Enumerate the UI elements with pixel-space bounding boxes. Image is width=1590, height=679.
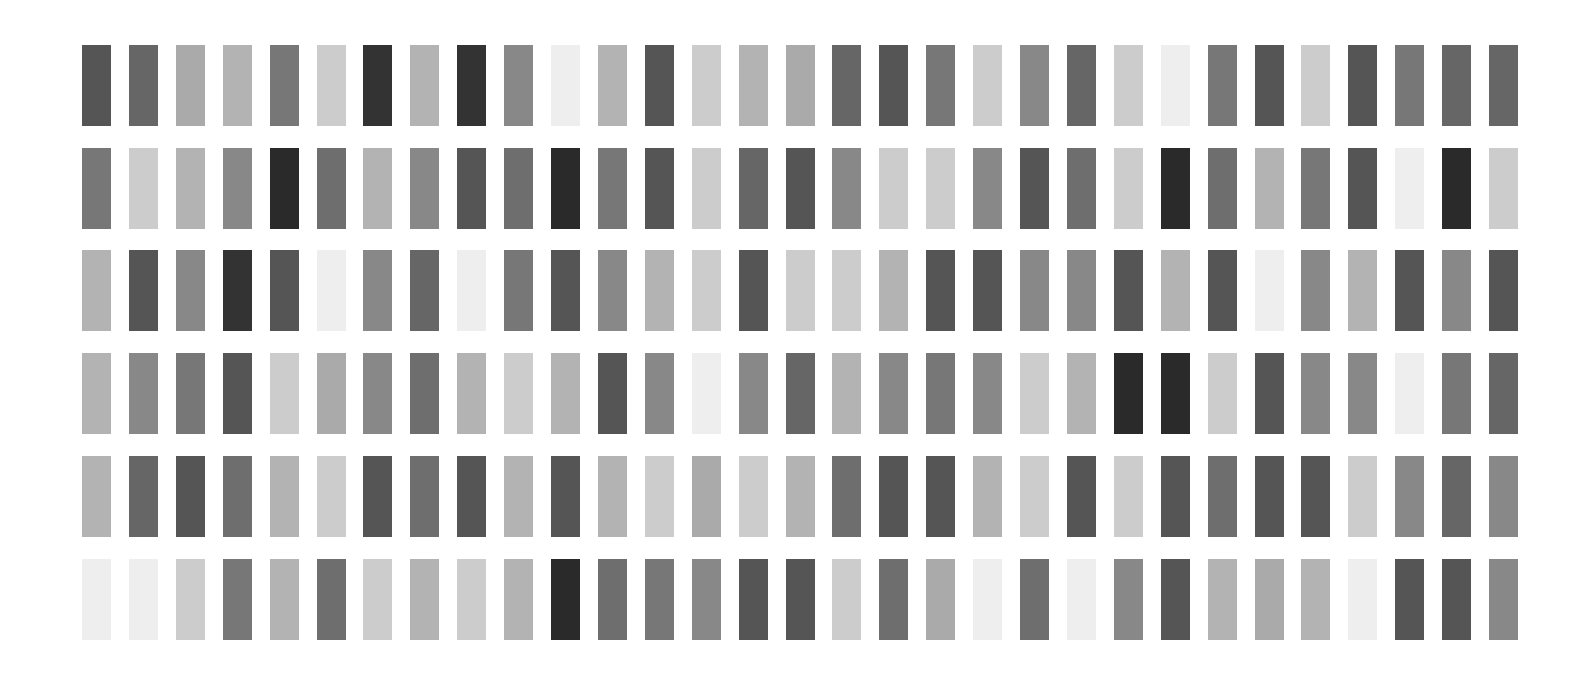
gray-swatch: [457, 353, 486, 434]
gray-swatch: [739, 250, 768, 331]
gray-swatch: [692, 559, 721, 640]
gray-swatch: [176, 353, 205, 434]
gray-swatch: [223, 45, 252, 126]
gray-swatch: [1208, 45, 1237, 126]
gray-swatch: [270, 559, 299, 640]
gray-swatch: [692, 353, 721, 434]
gray-swatch: [1208, 456, 1237, 537]
gray-swatch: [82, 148, 111, 229]
gray-swatch: [1255, 250, 1284, 331]
gray-swatch: [1301, 45, 1330, 126]
gray-swatch: [1020, 45, 1049, 126]
gray-swatch: [1442, 45, 1471, 126]
gray-swatch: [1301, 148, 1330, 229]
gray-swatch: [410, 45, 439, 126]
gray-swatch: [1161, 250, 1190, 331]
gray-swatch: [129, 45, 158, 126]
gray-swatch: [270, 45, 299, 126]
gray-swatch: [129, 250, 158, 331]
gray-swatch: [1255, 559, 1284, 640]
gray-swatch: [786, 559, 815, 640]
gray-swatch: [832, 559, 861, 640]
gray-swatch: [551, 353, 580, 434]
gray-swatch: [270, 456, 299, 537]
gray-swatch: [457, 559, 486, 640]
gray-swatch: [317, 456, 346, 537]
gray-swatch: [1208, 148, 1237, 229]
gray-swatch: [1161, 559, 1190, 640]
gray-swatch: [176, 559, 205, 640]
gray-swatch: [1208, 559, 1237, 640]
gray-swatch: [82, 353, 111, 434]
gray-swatch: [1348, 250, 1377, 331]
gray-swatch: [832, 148, 861, 229]
gray-swatch: [1161, 148, 1190, 229]
gray-swatch: [1348, 45, 1377, 126]
gray-swatch: [129, 148, 158, 229]
gray-swatch: [973, 456, 1002, 537]
gray-swatch: [786, 456, 815, 537]
gray-swatch: [457, 250, 486, 331]
gray-swatch: [1020, 559, 1049, 640]
gray-swatch: [1161, 456, 1190, 537]
gray-swatch: [598, 456, 627, 537]
gray-swatch: [270, 148, 299, 229]
gray-swatch: [1208, 250, 1237, 331]
gray-swatch: [973, 250, 1002, 331]
gray-swatch: [223, 456, 252, 537]
gray-swatch: [1114, 250, 1143, 331]
gray-swatch: [223, 148, 252, 229]
gray-swatch: [598, 353, 627, 434]
gray-swatch: [1114, 148, 1143, 229]
gray-swatch: [82, 456, 111, 537]
gray-swatch: [82, 559, 111, 640]
gray-swatch: [1255, 353, 1284, 434]
gray-swatch-grid: [0, 0, 1590, 679]
gray-swatch: [410, 456, 439, 537]
gray-swatch: [598, 45, 627, 126]
gray-swatch: [692, 456, 721, 537]
gray-swatch: [1348, 559, 1377, 640]
gray-swatch: [786, 250, 815, 331]
gray-swatch: [504, 353, 533, 434]
gray-swatch: [879, 353, 908, 434]
gray-swatch: [1395, 559, 1424, 640]
gray-swatch: [1489, 250, 1518, 331]
gray-swatch: [1395, 353, 1424, 434]
gray-swatch: [223, 353, 252, 434]
gray-swatch: [1395, 250, 1424, 331]
gray-swatch: [1067, 559, 1096, 640]
gray-swatch: [1489, 559, 1518, 640]
gray-swatch: [363, 250, 392, 331]
gray-swatch: [645, 250, 674, 331]
gray-swatch: [363, 148, 392, 229]
gray-swatch: [317, 45, 346, 126]
gray-swatch: [598, 250, 627, 331]
gray-swatch: [504, 250, 533, 331]
gray-swatch: [1301, 559, 1330, 640]
gray-swatch: [1442, 353, 1471, 434]
gray-swatch: [692, 250, 721, 331]
gray-swatch: [551, 148, 580, 229]
gray-swatch: [786, 45, 815, 126]
gray-swatch: [1114, 456, 1143, 537]
gray-swatch: [973, 559, 1002, 640]
gray-swatch: [410, 559, 439, 640]
gray-swatch: [551, 45, 580, 126]
gray-swatch: [317, 250, 346, 331]
gray-swatch: [504, 559, 533, 640]
gray-swatch: [1114, 45, 1143, 126]
gray-swatch: [1348, 353, 1377, 434]
gray-swatch: [317, 353, 346, 434]
gray-swatch: [1442, 148, 1471, 229]
gray-swatch: [270, 250, 299, 331]
gray-swatch: [645, 148, 674, 229]
gray-swatch: [645, 353, 674, 434]
gray-swatch: [363, 456, 392, 537]
gray-swatch: [598, 559, 627, 640]
gray-swatch: [1020, 250, 1049, 331]
gray-swatch: [926, 559, 955, 640]
gray-swatch: [692, 45, 721, 126]
gray-swatch: [1161, 353, 1190, 434]
gray-swatch: [645, 456, 674, 537]
